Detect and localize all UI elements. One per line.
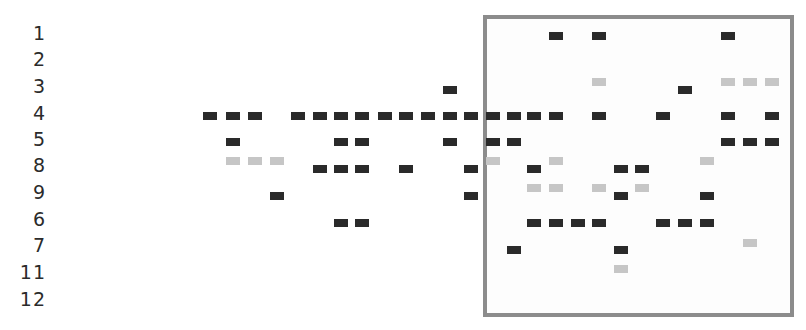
- mark-row-6-dark: [656, 219, 670, 227]
- mark-row-5-dark: [507, 138, 521, 146]
- row-label: 1: [0, 23, 46, 43]
- row-label: 11: [0, 262, 46, 282]
- mark-row-8-dark: [355, 165, 369, 173]
- mark-row-7-dark: [507, 246, 521, 254]
- mark-row-4-dark: [721, 112, 735, 120]
- mark-row-1-dark: [721, 32, 735, 40]
- mark-row-8-dark: [313, 165, 327, 173]
- mark-row-4-dark: [656, 112, 670, 120]
- mark-row-6-dark: [527, 219, 541, 227]
- mark-row-4-dark: [355, 112, 369, 120]
- mark-row-4-dark: [334, 112, 348, 120]
- mark-row-5-dark: [334, 138, 348, 146]
- mark-row-3-light: [592, 78, 606, 86]
- mark-row-8-light: [270, 157, 284, 165]
- mark-row-8-dark: [464, 165, 478, 173]
- mark-row-4-dark: [421, 112, 435, 120]
- mark-row-8-light: [549, 157, 563, 165]
- mark-row-5-dark: [721, 138, 735, 146]
- mark-row-5-dark: [765, 138, 779, 146]
- row-label: 7: [0, 235, 46, 255]
- mark-row-5-dark: [443, 138, 457, 146]
- mark-row-4-dark: [399, 112, 413, 120]
- row-label: 6: [0, 209, 46, 229]
- mark-row-9-light: [635, 184, 649, 192]
- mark-row-5-dark: [743, 138, 757, 146]
- mark-row-9-light: [592, 184, 606, 192]
- mark-row-9-dark: [270, 192, 284, 200]
- mark-row-1-dark: [592, 32, 606, 40]
- mark-row-6-dark: [592, 219, 606, 227]
- mark-row-9-light: [527, 184, 541, 192]
- mark-row-9-dark: [614, 192, 628, 200]
- mark-row-8-dark: [334, 165, 348, 173]
- mark-row-4-dark: [464, 112, 478, 120]
- mark-row-6-dark: [355, 219, 369, 227]
- mark-row-4-dark: [592, 112, 606, 120]
- row-label: 12: [0, 289, 46, 309]
- mark-row-7-light: [743, 239, 757, 247]
- mark-row-4-dark: [443, 112, 457, 120]
- mark-row-5-dark: [355, 138, 369, 146]
- mark-row-4-dark: [549, 112, 563, 120]
- mark-row-3-light: [765, 78, 779, 86]
- mark-row-8-light: [700, 157, 714, 165]
- mark-row-3-light: [743, 78, 757, 86]
- mark-row-4-dark: [248, 112, 262, 120]
- row-label: 2: [0, 49, 46, 69]
- mark-row-3-dark: [678, 86, 692, 94]
- mark-row-4-dark: [527, 112, 541, 120]
- presence-matrix-chart: 1 2 3 4 5 8 9 6 7 11 12: [0, 0, 806, 330]
- mark-row-11-light: [614, 265, 628, 273]
- mark-row-6-dark: [334, 219, 348, 227]
- mark-row-8-dark: [614, 165, 628, 173]
- mark-row-5-dark: [486, 138, 500, 146]
- mark-row-4-dark: [291, 112, 305, 120]
- mark-row-4-dark: [507, 112, 521, 120]
- mark-row-8-dark: [399, 165, 413, 173]
- row-label: 3: [0, 76, 46, 96]
- mark-row-7-dark: [614, 246, 628, 254]
- mark-row-6-dark: [700, 219, 714, 227]
- mark-row-8-light: [248, 157, 262, 165]
- mark-row-4-dark: [765, 112, 779, 120]
- mark-row-3-dark: [443, 86, 457, 94]
- mark-row-6-dark: [678, 219, 692, 227]
- mark-row-9-dark: [464, 192, 478, 200]
- mark-row-4-dark: [313, 112, 327, 120]
- mark-row-9-dark: [700, 192, 714, 200]
- mark-row-1-dark: [549, 32, 563, 40]
- row-label: 4: [0, 103, 46, 123]
- mark-row-8-dark: [527, 165, 541, 173]
- mark-row-3-light: [721, 78, 735, 86]
- mark-row-8-dark: [635, 165, 649, 173]
- mark-row-8-light: [226, 157, 240, 165]
- mark-row-6-dark: [571, 219, 585, 227]
- mark-row-4-dark: [226, 112, 240, 120]
- mark-row-4-dark: [378, 112, 392, 120]
- mark-row-8-light: [486, 157, 500, 165]
- mark-row-5-dark: [226, 138, 240, 146]
- row-label: 5: [0, 129, 46, 149]
- row-label: 8: [0, 155, 46, 175]
- mark-row-4-dark: [486, 112, 500, 120]
- mark-row-6-dark: [549, 219, 563, 227]
- mark-row-4-dark: [203, 112, 217, 120]
- row-label: 9: [0, 182, 46, 202]
- mark-row-9-light: [549, 184, 563, 192]
